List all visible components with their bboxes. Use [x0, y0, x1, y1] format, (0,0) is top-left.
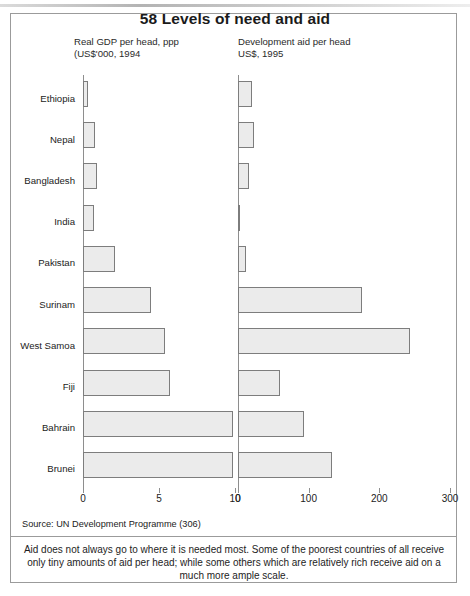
chart-caption: Aid does not always go to where it is ne… [20, 543, 448, 582]
bar[interactable] [238, 328, 410, 354]
page-title: 58 Levels of need and aid [0, 10, 470, 28]
axis-tick-label: 100 [300, 493, 317, 504]
axis-tick-label: 0 [80, 493, 86, 504]
country-label: Pakistan [10, 248, 80, 278]
chart-row [238, 368, 450, 398]
bar[interactable] [83, 287, 151, 313]
axis-tick-label: 300 [442, 493, 459, 504]
axis-tick-label: 0 [235, 493, 241, 504]
bar[interactable] [238, 122, 254, 148]
bar[interactable] [238, 452, 332, 478]
chart-row [83, 120, 235, 150]
country-label: Fiji [10, 372, 80, 402]
bar[interactable] [238, 411, 304, 437]
caption-line: Aid does not always go to where it is ne… [20, 543, 448, 556]
right-panel-header: Development aid per head US$, 1995 [238, 36, 351, 60]
right-axis-ticks: 0100200300 [238, 488, 450, 510]
caption-line: only tiny amounts of aid per head; while… [20, 556, 448, 569]
bar[interactable] [83, 122, 95, 148]
country-label: Brunei [10, 454, 80, 484]
chart-row [83, 326, 235, 356]
chart-row [83, 409, 235, 439]
bar[interactable] [238, 287, 362, 313]
bar[interactable] [238, 163, 249, 189]
country-label: Ethiopia [10, 83, 80, 113]
country-label-column: EthiopiaNepalBangladeshIndiaPakistanSuri… [10, 79, 80, 492]
chart-row [83, 285, 235, 315]
bar[interactable] [83, 328, 165, 354]
chart-row [238, 203, 450, 233]
chart-row [238, 244, 450, 274]
chart-row [83, 161, 235, 191]
country-label: Surinam [10, 289, 80, 319]
chart-row [83, 368, 235, 398]
chart-page: 58 Levels of need and aid Real GDP per h… [0, 0, 470, 596]
country-label: Bahrain [10, 413, 80, 443]
bar[interactable] [83, 81, 88, 107]
left-axis-ticks: 0510 [83, 488, 235, 510]
chart-row [238, 285, 450, 315]
bar[interactable] [238, 370, 280, 396]
country-label: West Samoa [10, 330, 80, 360]
country-label: Bangladesh [10, 165, 80, 195]
chart-row [83, 79, 235, 109]
left-panel-header: Real GDP per head, ppp (US$'000, 1994 [74, 36, 179, 60]
chart-row [238, 450, 450, 480]
chart-row [238, 79, 450, 109]
axis-tick-label: 5 [156, 493, 162, 504]
chart-row [238, 161, 450, 191]
bar[interactable] [238, 205, 240, 231]
bar[interactable] [83, 370, 170, 396]
bar[interactable] [238, 246, 246, 272]
chart-row [238, 120, 450, 150]
axis-tick-label: 200 [371, 493, 388, 504]
country-label: India [10, 207, 80, 237]
left-chart-plot [83, 75, 235, 488]
chart-row [83, 203, 235, 233]
right-chart-plot [238, 75, 450, 488]
footer-divider [11, 536, 456, 537]
source-note: Source: UN Development Programme (306) [22, 519, 201, 529]
chart-row [83, 450, 235, 480]
bar[interactable] [238, 81, 252, 107]
chart-row [238, 409, 450, 439]
bar[interactable] [83, 452, 233, 478]
country-label: Nepal [10, 124, 80, 154]
bar[interactable] [83, 163, 97, 189]
bar[interactable] [83, 205, 94, 231]
bar[interactable] [83, 411, 233, 437]
caption-line: much more ample scale. [20, 569, 448, 582]
chart-row [238, 326, 450, 356]
bar[interactable] [83, 246, 115, 272]
chart-row [83, 244, 235, 274]
scan-artifact [0, 4, 470, 7]
